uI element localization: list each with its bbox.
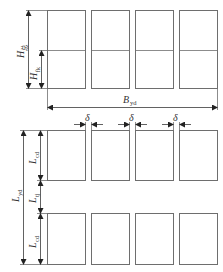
total-width-label-main: B [123,94,129,105]
total-length-label: L yd [10,189,23,203]
block-length-bottom-label-main: L [27,242,38,249]
storage-layout-diagram: H 总 H fk B yd [0,0,223,272]
total-length-label-main: L [10,196,21,203]
block-length-top-label: L cd [27,151,40,165]
block-r1-c3 [136,131,174,181]
storey-height-label-sub: fk [34,66,41,72]
aisle-length-label-main: L [27,197,38,204]
bottom-row-2 [48,214,218,265]
block-length-top-label-sub: cd [33,151,40,158]
gap-label: δ [173,112,178,123]
top-panel: H 总 H fk B yd [15,11,218,111]
total-width-label: B yd [123,94,137,106]
column-3 [136,11,174,89]
block-r2-c1 [48,214,86,265]
block-length-top-label-main: L [27,158,38,165]
column-1 [48,11,86,89]
storey-height-label: H fk [28,66,41,81]
block-r2-c2 [92,214,130,265]
total-height-label: H 总 [15,44,28,60]
aisle-length-label-sub: tj [33,193,40,197]
block-length-bottom-label-sub: cd [33,235,40,242]
gap-marker-3: δ [162,112,191,131]
block-r1-c2 [92,131,130,181]
bottom-row-1 [48,131,218,181]
gap-label: δ [85,112,90,123]
column-2 [92,11,130,89]
gap-label: δ [129,112,134,123]
block-r1-c4 [180,131,218,181]
block-r2-c3 [136,214,174,265]
aisle-length-label: L tj [27,193,40,204]
block-r1-c1 [48,131,86,181]
gap-marker-1: δ [74,112,103,131]
column-4 [180,11,218,89]
block-r2-c4 [180,214,218,265]
bottom-panel: δ δ δ L yd L cd [10,112,218,265]
total-width-label-sub: yd [130,99,137,106]
gap-marker-2: δ [118,112,147,131]
block-length-bottom-label: L cd [27,235,40,249]
top-columns [48,11,218,89]
total-height-label-sub: 总 [20,44,28,51]
total-length-label-sub: yd [16,189,23,196]
